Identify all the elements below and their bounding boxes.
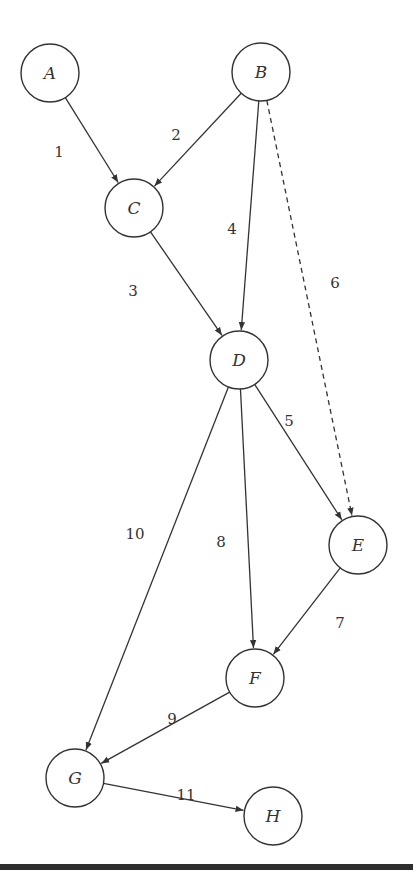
- node-a: A: [21, 44, 79, 102]
- node-h: H: [244, 787, 302, 845]
- edge-label: 2: [171, 126, 181, 144]
- edge-label: 7: [335, 614, 345, 632]
- node-c: C: [105, 179, 163, 237]
- edge-b-c: [154, 93, 241, 186]
- arrow-line: [154, 93, 241, 186]
- edge-label: 3: [128, 282, 138, 300]
- node-e: E: [329, 516, 387, 574]
- node-d: D: [210, 331, 268, 389]
- edge-a-c: [65, 98, 118, 183]
- edge-g-h: [103, 783, 243, 810]
- bottom-rule: [0, 864, 413, 870]
- edge-e-f: [273, 568, 340, 654]
- node-label: D: [231, 350, 246, 370]
- nodes-layer: ABCDEFGH: [21, 43, 387, 845]
- node-label: G: [68, 768, 82, 788]
- arrow-line: [101, 692, 229, 763]
- edge-b-d: [241, 101, 259, 330]
- arrow-line: [273, 568, 340, 654]
- node-label: A: [42, 63, 56, 83]
- edge-c-d: [150, 232, 221, 335]
- edge-label: 8: [216, 533, 226, 551]
- arrow-line: [267, 100, 352, 515]
- arrow-line: [103, 783, 243, 810]
- node-g: G: [46, 749, 104, 807]
- arrow-line: [150, 232, 221, 335]
- arrow-line: [65, 98, 118, 183]
- edge-labels-layer: 1234567891011: [54, 126, 345, 804]
- arrow-line: [241, 101, 259, 330]
- edge-b-e: [267, 100, 352, 515]
- edge-label: 1: [54, 143, 64, 161]
- node-f: F: [226, 649, 284, 707]
- edge-label: 5: [284, 412, 294, 430]
- edge-f-g: [101, 692, 229, 763]
- edge-label: 9: [167, 710, 177, 728]
- edge-label: 6: [330, 274, 340, 292]
- edge-d-f: [240, 389, 253, 648]
- edge-d-g: [86, 387, 228, 750]
- arrow-line: [240, 389, 253, 648]
- node-label: B: [254, 62, 268, 82]
- directed-graph: 1234567891011 ABCDEFGH: [0, 0, 415, 884]
- node-label: C: [127, 198, 140, 218]
- edge-label: 11: [176, 786, 195, 804]
- edge-label: 10: [125, 525, 144, 543]
- node-label: H: [265, 806, 282, 826]
- node-b: B: [232, 43, 290, 101]
- node-label: F: [248, 668, 262, 688]
- node-label: E: [351, 535, 365, 555]
- edge-label: 4: [227, 220, 237, 238]
- arrow-line: [86, 387, 228, 750]
